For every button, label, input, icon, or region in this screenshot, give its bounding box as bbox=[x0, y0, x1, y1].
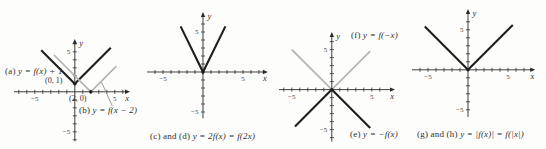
caption-cd-prefix: (c) and (d) bbox=[150, 131, 193, 141]
y-axis-arrow-icon bbox=[330, 32, 334, 37]
y-axis-label: y bbox=[335, 31, 340, 41]
label-point-2-0: (2, 0) bbox=[69, 94, 86, 104]
vertex-point bbox=[89, 90, 92, 93]
label-e-formula: y = −f(x) bbox=[363, 129, 398, 139]
curve-f bbox=[292, 50, 370, 90]
label-e-prefix: (e) bbox=[350, 129, 363, 139]
label-f-prefix: (f) bbox=[351, 30, 363, 40]
x-axis-label: x bbox=[124, 93, 129, 103]
x-axis-label: x bbox=[262, 73, 267, 83]
x-tick-label: 5 bbox=[241, 75, 245, 83]
caption-gh-formula: y = |f(x)| = f(|x|) bbox=[460, 129, 524, 139]
label-a-prefix: (a) bbox=[5, 66, 18, 76]
label-e: (e) y = −f(x) bbox=[350, 129, 398, 139]
label-b-formula: y = f(x − 2) bbox=[93, 105, 138, 115]
y-axis-arrow-icon bbox=[201, 12, 205, 17]
y-tick-label: 5 bbox=[324, 46, 328, 54]
y-axis-label: y bbox=[471, 8, 476, 18]
caption-cd-formula: y = 2f(x) = f(2x) bbox=[193, 131, 256, 141]
graph-shift-transformations: −555−5xy bbox=[13, 38, 131, 142]
y-axis-label: y bbox=[78, 38, 83, 48]
label-b: (b) y = f(x − 2) bbox=[79, 105, 137, 115]
label-a-formula: y = f(x) + 1 bbox=[18, 66, 63, 76]
caption-gh-prefix: (g) and (h) bbox=[417, 129, 460, 139]
y-tick-label: −5 bbox=[456, 106, 464, 114]
y-tick-label: −5 bbox=[63, 128, 71, 136]
vertex-point bbox=[466, 68, 469, 71]
y-axis-label: y bbox=[206, 10, 211, 20]
x-tick-label: −5 bbox=[159, 75, 167, 83]
label-b-prefix: (b) bbox=[79, 105, 93, 115]
label-a: (a) y = f(x) + 1 bbox=[5, 66, 63, 76]
caption-gh: (g) and (h) y = |f(x)| = f(|x|) bbox=[417, 129, 524, 139]
y-tick-label: 5 bbox=[460, 26, 464, 34]
y-tick-label: −5 bbox=[320, 126, 328, 134]
x-axis-label: x bbox=[389, 91, 394, 101]
x-tick-label: 5 bbox=[506, 73, 510, 81]
x-tick-label: 5 bbox=[113, 95, 117, 103]
y-tick-label: 5 bbox=[195, 28, 199, 36]
y-tick-label: 5 bbox=[67, 48, 71, 56]
y-tick-label: −5 bbox=[191, 108, 199, 116]
label-point-2-0-prefix: (2, 0) bbox=[69, 94, 86, 103]
caption-cd: (c) and (d) y = 2f(x) = f(2x) bbox=[150, 131, 255, 141]
figure-canvas: −555−5xy(a) y = f(x) + 1(0, 1)(2, 0)(b) … bbox=[0, 0, 546, 149]
label-point-0-1-prefix: (0, 1) bbox=[45, 76, 62, 85]
graph-reflect-transformations: −555−5xy bbox=[278, 31, 396, 143]
graph-absolute-value-transformations: −555−5xy bbox=[411, 8, 536, 118]
curve-e bbox=[295, 90, 370, 128]
x-axis-label: x bbox=[529, 71, 534, 81]
y-axis-arrow-icon bbox=[466, 9, 470, 14]
x-tick-label: 5 bbox=[370, 93, 374, 101]
y-axis-arrow-icon bbox=[73, 39, 77, 44]
vertex-point bbox=[201, 70, 204, 73]
vertex-point bbox=[330, 88, 333, 91]
label-f-formula: y = f(−x) bbox=[363, 30, 398, 40]
label-f: (f) y = f(−x) bbox=[351, 30, 398, 40]
graph-stretch-transformations: −555−5xy bbox=[146, 11, 269, 119]
x-tick-label: −5 bbox=[31, 95, 39, 103]
x-tick-label: −5 bbox=[424, 73, 432, 81]
x-tick-label: −5 bbox=[288, 93, 296, 101]
vertex-point bbox=[73, 82, 76, 85]
curve-gh bbox=[425, 25, 513, 70]
leader-line bbox=[101, 82, 112, 107]
label-point-0-1: (0, 1) bbox=[45, 76, 62, 86]
